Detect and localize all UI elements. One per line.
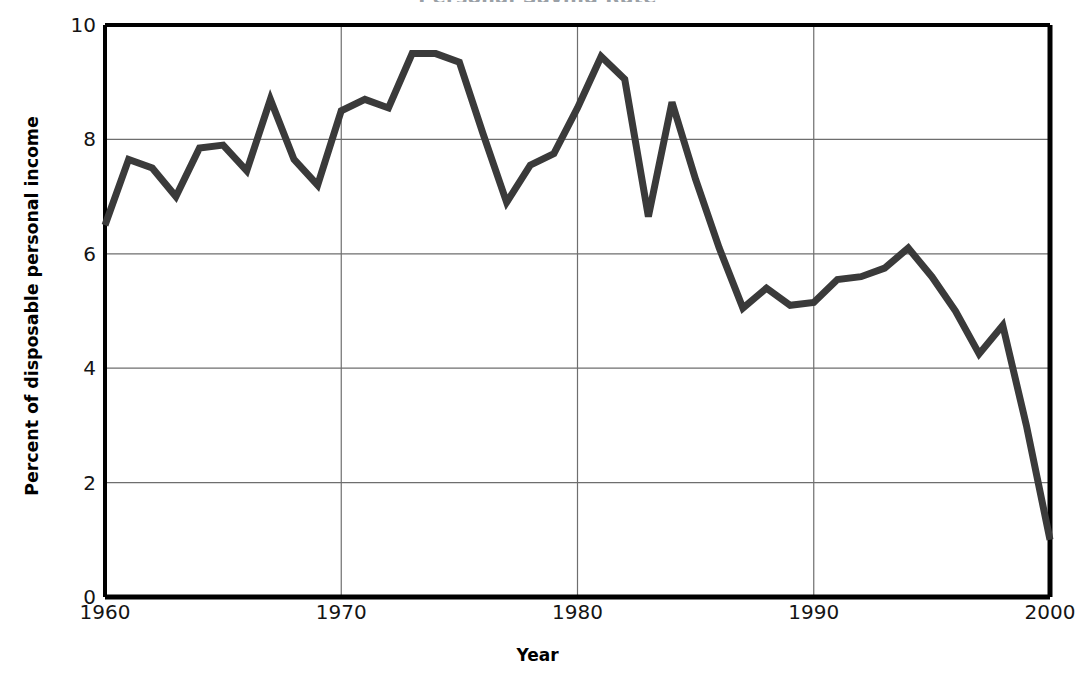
plot-area xyxy=(0,0,1075,677)
chart-figure: Personal Saving Rate Percent of disposab… xyxy=(0,0,1075,677)
